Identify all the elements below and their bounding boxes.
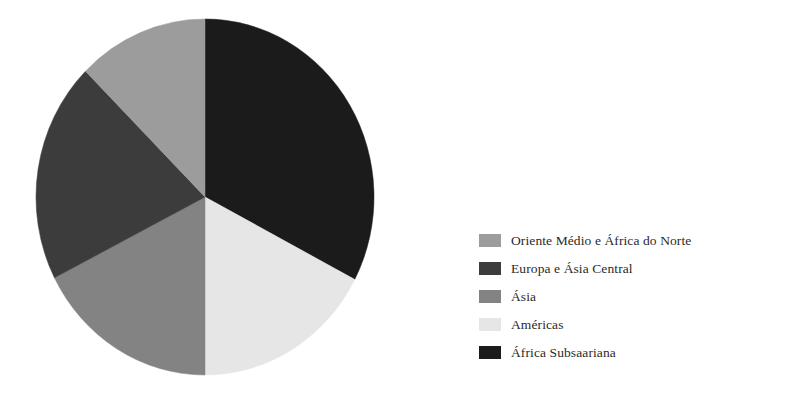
legend-swatch-icon bbox=[479, 234, 501, 247]
pie-chart-figure: Oriente Médio e África do Norte Europa e… bbox=[0, 0, 797, 397]
legend-swatch-icon bbox=[479, 290, 501, 303]
pie-slice-group bbox=[36, 19, 374, 375]
legend-item-label: Ásia bbox=[511, 289, 536, 304]
legend-swatch-icon bbox=[479, 262, 501, 275]
legend-item-africa-subsaariana[interactable]: África Subsaariana bbox=[479, 338, 779, 366]
pie-svg bbox=[33, 16, 377, 378]
legend-swatch-icon bbox=[479, 346, 501, 359]
legend-item-label: Américas bbox=[511, 317, 564, 332]
legend-item-asia[interactable]: Ásia bbox=[479, 282, 779, 310]
legend-item-label: Europa e Ásia Central bbox=[511, 261, 633, 276]
legend-item-europa-e-asia-central[interactable]: Europa e Ásia Central bbox=[479, 254, 779, 282]
legend-item-oriente-medio-e-africa-do-norte[interactable]: Oriente Médio e África do Norte bbox=[479, 226, 779, 254]
chart-legend: Oriente Médio e África do Norte Europa e… bbox=[479, 226, 779, 366]
legend-swatch-icon bbox=[479, 318, 501, 331]
pie-chart-plot-area bbox=[33, 16, 377, 378]
legend-item-label: África Subsaariana bbox=[511, 345, 616, 360]
legend-item-label: Oriente Médio e África do Norte bbox=[511, 233, 691, 248]
legend-item-americas[interactable]: Américas bbox=[479, 310, 779, 338]
